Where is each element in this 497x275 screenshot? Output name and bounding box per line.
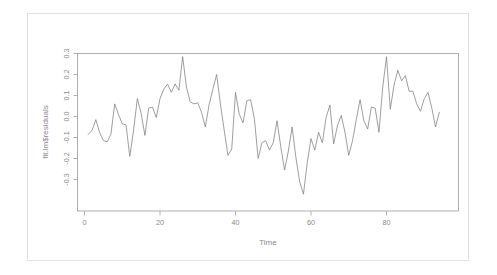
residual-plot: 0.3 0.2 0.1 0.0 -0.1 -0.2 -0.3 0 20 40 6… bbox=[0, 0, 497, 275]
y-tick-label: -0.3 bbox=[62, 173, 71, 185]
y-tick-label: 0.2 bbox=[62, 70, 71, 80]
x-tick-label: 20 bbox=[156, 218, 164, 227]
x-axis-ticks bbox=[85, 212, 387, 216]
x-tick-label: 40 bbox=[232, 218, 240, 227]
y-tick-label: -0.2 bbox=[62, 152, 71, 164]
y-tick-label: 0.3 bbox=[62, 49, 71, 59]
x-tick-label: 60 bbox=[307, 218, 315, 227]
x-axis-title: Time bbox=[259, 238, 277, 247]
y-tick-labels: 0.3 0.2 0.1 0.0 -0.1 -0.2 -0.3 bbox=[62, 49, 71, 186]
y-tick-label: -0.1 bbox=[62, 131, 71, 143]
y-tick-label: 0.1 bbox=[62, 91, 71, 101]
x-tick-label: 0 bbox=[83, 218, 87, 227]
plot-area-box bbox=[78, 54, 459, 212]
y-tick-label: 0.0 bbox=[62, 112, 71, 122]
y-axis-title: fit.lm$residuals bbox=[41, 105, 50, 158]
x-tick-labels: 0 20 40 60 80 bbox=[83, 218, 391, 227]
residual-series-line bbox=[88, 57, 439, 195]
figure-container: 0.3 0.2 0.1 0.0 -0.1 -0.2 -0.3 0 20 40 6… bbox=[0, 0, 497, 275]
y-axis-ticks bbox=[74, 54, 78, 180]
x-tick-label: 80 bbox=[383, 218, 391, 227]
